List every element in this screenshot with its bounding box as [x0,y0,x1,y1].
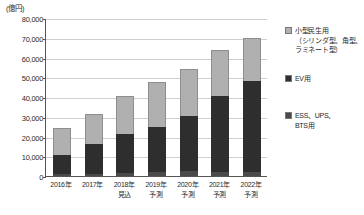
y-axis-tick-label: 40,000 [3,94,43,103]
bar-segment-ess [211,172,229,176]
legend-swatch-icon-small-consumer [285,27,292,34]
y-axis-tick-label: 50,000 [3,74,43,83]
legend-item-ess-ups-bts[interactable]: ESS、UPS、 BTS用 [285,111,364,130]
chart-container: (億円) 80,00070,00060,00050,00040,00030,00… [0,0,364,215]
x-axis-tick-label: 2022年予測 [235,180,267,199]
bar-segment-ev [211,96,229,172]
legend-label-ess-ups-bts: ESS、UPS、 BTS用 [295,111,335,130]
y-axis-tick-label: 80,000 [3,15,43,24]
bar-segment-small-consumer [180,69,198,115]
y-axis-tick-label: 60,000 [3,54,43,63]
x-axis-label-row: 2016年2017年2018年見込2019年予測2020年予測2021年予測20… [45,180,267,214]
bar-segment-small-consumer [116,96,134,134]
bar-group[interactable] [148,82,166,176]
bar-segment-ess [53,174,71,176]
bar-segment-ev [243,81,261,172]
y-axis-tick-label: 0 [3,173,43,182]
legend-label-small-consumer: 小型民生用 （シリンダ型、角型、 ラミネート型） [295,26,362,55]
x-axis-tick-label: 2020年予測 [172,180,204,199]
legend-label-line1: ESS、UPS、 [295,112,335,119]
bar-segment-small-consumer [243,38,261,81]
plot-area [45,19,267,177]
bar-segment-ev [53,155,71,174]
bar-group[interactable] [211,50,229,176]
x-axis-tick-label: 2016年 [45,180,77,190]
bar-segment-small-consumer [148,82,166,126]
bar-segment-small-consumer [85,114,103,145]
bar-group[interactable] [116,96,134,176]
legend-label-line2: BTS用 [295,122,314,129]
bar-segment-ess [243,172,261,176]
bar-segment-ev [85,144,103,174]
legend-spacer [285,57,364,74]
y-axis-unit-label: (億円) [6,2,24,13]
legend-label-line1: EV用 [295,75,310,82]
bar-group[interactable] [180,69,198,176]
bar-segment-ev [148,127,166,172]
bar-segment-ess [85,174,103,176]
bar-segment-ess [116,173,134,176]
y-axis-tick-label: 70,000 [3,34,43,43]
y-axis-tick-label: 10,000 [3,153,43,162]
x-axis-tick-label: 2019年予測 [140,180,172,199]
y-axis-tick-label: 20,000 [3,133,43,142]
bar-segment-ess [180,171,198,176]
x-axis-tick-label: 2018年見込 [108,180,140,199]
bar-group[interactable] [243,38,261,176]
chart-legend: 小型民生用 （シリンダ型、角型、 ラミネート型） EV用 ESS、UPS、 BT… [285,26,364,132]
legend-item-ev[interactable]: EV用 [285,74,364,84]
x-axis-tick-label: 2021年予測 [204,180,236,199]
bar-segment-ev [116,134,134,174]
legend-label-line1: 小型民生用 [295,27,329,34]
y-axis-tick-column: 80,00070,00060,00050,00040,00030,00020,0… [0,19,43,177]
bar-group[interactable] [53,128,71,176]
bar-segment-ev [180,116,198,171]
bar-segment-small-consumer [53,128,71,155]
legend-label-line2: （シリンダ型、角型、 [295,37,362,44]
legend-label-line3: ラミネート型） [295,46,342,53]
bar-group[interactable] [85,114,103,176]
bar-segment-small-consumer [211,50,229,96]
y-axis-tick-label: 30,000 [3,113,43,122]
bar-segment-ess [148,172,166,176]
legend-swatch-icon-ess-ups-bts [285,112,292,119]
x-axis-tick-label: 2017年 [77,180,109,190]
y-axis-tick-mark [43,177,46,178]
legend-item-small-consumer[interactable]: 小型民生用 （シリンダ型、角型、 ラミネート型） [285,26,364,55]
legend-label-ev: EV用 [295,74,310,84]
legend-spacer [285,85,364,111]
legend-swatch-icon-ev [285,75,292,82]
bar-series-layer [46,19,267,176]
